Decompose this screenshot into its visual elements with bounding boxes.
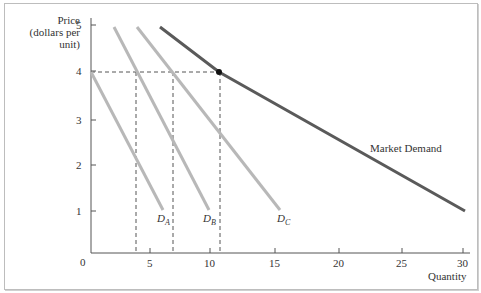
market-demand-point <box>216 69 222 75</box>
y-tick-5: 5 <box>76 19 82 31</box>
x-tick-20: 20 <box>333 257 344 269</box>
label-da: DA <box>157 212 170 229</box>
y-tick-1: 1 <box>76 205 82 217</box>
x-ticks <box>150 248 463 253</box>
y-label-line-1: Price <box>6 14 80 26</box>
y-tick-2: 2 <box>76 159 82 171</box>
x-axis-label: Quantity <box>428 270 467 282</box>
market-demand-curve <box>160 27 465 211</box>
y-axis-label: Price (dollars per unit) <box>6 14 80 50</box>
y-tick-3: 3 <box>76 114 82 126</box>
curve-dc <box>137 27 280 210</box>
label-dc: DC <box>277 212 290 229</box>
x-tick-30: 30 <box>457 257 468 269</box>
x-tick-10: 10 <box>204 257 215 269</box>
x-tick-5: 5 <box>147 257 153 269</box>
origin-label: 0 <box>80 256 86 268</box>
market-demand-label: Market Demand <box>370 142 442 154</box>
y-label-line-2: (dollars per <box>6 26 80 38</box>
y-ticks <box>91 25 96 211</box>
x-tick-25: 25 <box>396 257 407 269</box>
x-tick-15: 15 <box>269 257 280 269</box>
curve-da <box>91 72 163 210</box>
individual-demand-curves <box>91 27 280 210</box>
y-tick-4: 4 <box>76 65 82 77</box>
y-label-line-3: unit) <box>6 38 80 50</box>
label-db: DB <box>203 212 216 229</box>
dashed-guides <box>91 72 220 253</box>
